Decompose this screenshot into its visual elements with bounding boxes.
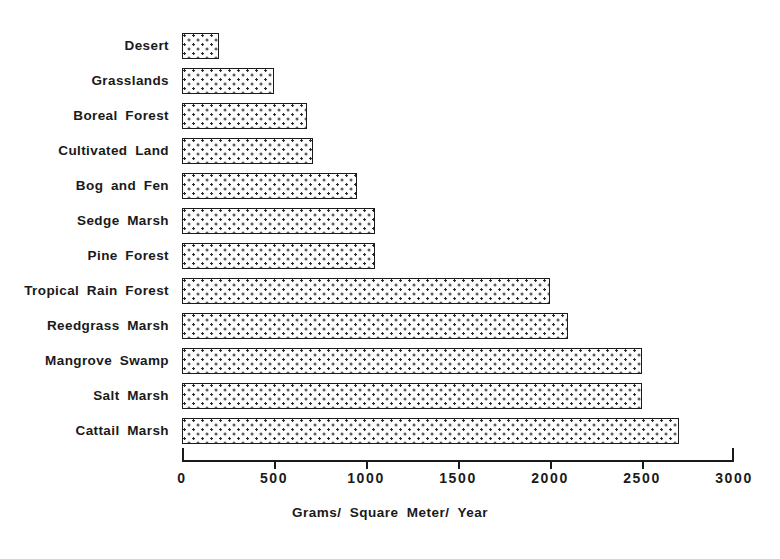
x-axis-tick [458,461,460,469]
bar [182,173,357,199]
category-label: Grasslands [0,63,175,98]
plot-area [182,28,734,460]
category-label: Cultivated Land [0,133,175,168]
bar-row [182,28,734,63]
x-axis-left-cap [182,448,184,460]
x-axis-tick [642,461,644,469]
x-axis-tick [366,461,368,469]
bar [182,138,313,164]
bar-row [182,63,734,98]
category-label: Reedgrass Marsh [0,308,175,343]
category-label: Boreal Forest [0,98,175,133]
x-axis-title: Grams/ Square Meter/ Year [0,505,780,520]
x-axis-tick [550,461,552,469]
x-axis-tick-label: 1500 [439,470,477,486]
bar [182,33,219,59]
x-axis-tick [274,461,276,469]
category-label: Bog and Fen [0,168,175,203]
bar [182,348,642,374]
x-axis-right-cap [732,448,734,460]
bar [182,68,274,94]
bar-row [182,203,734,238]
x-axis-tick-label: 2500 [623,470,661,486]
category-label: Sedge Marsh [0,203,175,238]
category-label: Tropical Rain Forest [0,273,175,308]
x-axis-tick-label: 500 [260,470,288,486]
bar-chart: DesertGrasslandsBoreal ForestCultivated … [0,0,780,559]
category-label: Desert [0,28,175,63]
bar-row [182,413,734,448]
category-label: Salt Marsh [0,378,175,413]
bar [182,278,550,304]
bar-row [182,343,734,378]
bar [182,418,679,444]
bar [182,103,307,129]
category-label: Mangrove Swamp [0,343,175,378]
bar-row [182,133,734,168]
bar-row [182,308,734,343]
category-label: Pine Forest [0,238,175,273]
category-label: Cattail Marsh [0,413,175,448]
x-axis-tick-label: 2000 [531,470,569,486]
bar-row [182,238,734,273]
bar-row [182,378,734,413]
bar [182,243,375,269]
bar-row [182,273,734,308]
bar-row [182,168,734,203]
bar [182,383,642,409]
x-axis-tick-label: 1000 [347,470,385,486]
x-axis-tick-label: 0 [177,470,186,486]
bar [182,208,375,234]
bar-row [182,98,734,133]
x-axis-tick-label: 3000 [715,470,753,486]
category-label-column: DesertGrasslandsBoreal ForestCultivated … [0,28,175,448]
bar [182,313,568,339]
